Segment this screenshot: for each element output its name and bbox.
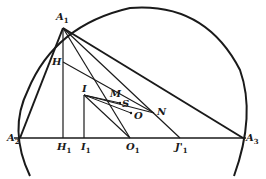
label-a1: A1 (56, 12, 69, 24)
label-h: H (52, 57, 61, 67)
geometry-diagram: A1 A2 A3 H H1 I I1 M S O N O1 J'1 (0, 0, 266, 179)
label-m: M (110, 89, 121, 99)
line-a1-o1 (63, 28, 130, 138)
label-o: O (134, 111, 143, 121)
label-a3: A3 (246, 133, 259, 145)
label-n: N (157, 107, 166, 117)
line-h-n (63, 62, 154, 113)
label-i1: I1 (81, 142, 91, 154)
line-a1-j1 (63, 28, 180, 138)
label-i: I (82, 84, 87, 94)
point-s (119, 102, 121, 104)
side-a1-a2 (20, 28, 63, 138)
label-s: S (122, 99, 129, 109)
label-a2: A2 (7, 133, 20, 145)
label-j1-prime: J'1 (175, 142, 188, 154)
label-h1: H1 (57, 142, 71, 154)
label-o1: O1 (126, 142, 140, 154)
point-o (130, 112, 132, 114)
side-a1-a3 (63, 28, 243, 138)
